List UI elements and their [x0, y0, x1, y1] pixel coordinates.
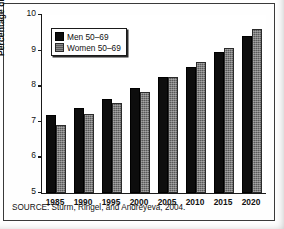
y-axis-tick-mark	[38, 121, 42, 122]
x-axis-tick-label: 2020	[234, 197, 268, 207]
legend-label-women: Women 50–69	[67, 43, 121, 53]
bar-group	[158, 77, 178, 193]
y-axis-tick-label: 5	[31, 186, 36, 196]
bar-men	[102, 99, 112, 193]
bar-women	[56, 125, 66, 193]
bar-men	[130, 88, 140, 193]
y-axis-tick-mark	[38, 192, 42, 193]
bar-men	[46, 115, 56, 193]
bar-group	[46, 115, 66, 193]
bar-men	[242, 36, 252, 193]
bar-women	[224, 48, 234, 193]
bar-men	[74, 108, 84, 193]
bar-women	[140, 92, 150, 193]
legend-item-men: Men 50–69	[55, 31, 121, 42]
bar-men	[214, 52, 224, 193]
y-axis-tick: 7	[26, 121, 42, 122]
y-axis-tick-label: 8	[31, 79, 36, 89]
legend-swatch-men-icon	[55, 32, 64, 41]
bar-women	[84, 114, 94, 193]
y-axis-tick-label: 9	[31, 44, 36, 54]
y-axis-tick-label: 10	[27, 8, 36, 18]
y-axis-tick-label: 6	[31, 150, 36, 160]
bar-women	[252, 29, 262, 193]
bar-group	[242, 29, 262, 193]
bar-group	[214, 48, 234, 193]
figure-frame: Percentage disabled 5678910 Men 50–69 Wo…	[3, 3, 275, 221]
bar-group	[130, 88, 150, 193]
y-axis-tick-mark	[38, 85, 42, 86]
y-axis-tick: 8	[26, 85, 42, 86]
legend-item-women: Women 50–69	[55, 42, 121, 53]
bar-chart: Percentage disabled 5678910 Men 50–69 Wo…	[4, 4, 276, 222]
y-axis-tick-mark	[38, 156, 42, 157]
legend-label-men: Men 50–69	[67, 32, 109, 42]
bar-women	[196, 62, 206, 193]
bar-group	[102, 99, 122, 193]
y-axis-tick-mark	[38, 14, 42, 15]
bar-men	[158, 77, 168, 193]
chart-legend: Men 50–69 Women 50–69	[51, 28, 127, 56]
y-axis-tick-label: 7	[31, 115, 36, 125]
y-axis-tick: 10	[26, 14, 42, 15]
bar-group	[186, 62, 206, 193]
y-axis-tick: 9	[26, 50, 42, 51]
bar-women	[112, 103, 122, 193]
y-axis-tick: 5	[26, 192, 42, 193]
legend-swatch-women-icon	[55, 43, 64, 52]
bar-group	[74, 108, 94, 193]
bar-women	[168, 77, 178, 193]
bar-men	[186, 67, 196, 193]
y-axis-title: Percentage disabled	[0, 0, 6, 56]
y-axis-tick: 6	[26, 156, 42, 157]
y-axis-tick-mark	[38, 50, 42, 51]
